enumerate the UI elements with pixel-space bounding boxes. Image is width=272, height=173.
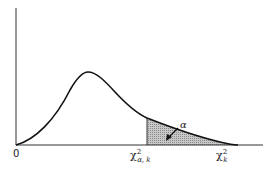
tail-area-alpha-label: α [180, 120, 187, 130]
tail-area-shade [147, 118, 238, 145]
chi-symbol: χ [130, 149, 137, 162]
density-curve [16, 72, 238, 145]
critical-value-label: χ2α, k [130, 150, 151, 161]
origin-label: 0 [13, 149, 19, 159]
subscript: k [223, 156, 227, 164]
superscript: 2 [223, 148, 227, 156]
chi-symbol: χ [216, 149, 223, 162]
axis-variable-label: χ2k [216, 150, 227, 161]
chi-square-diagram [0, 0, 272, 173]
subscript: α, k [137, 156, 150, 164]
superscript: 2 [137, 148, 141, 156]
